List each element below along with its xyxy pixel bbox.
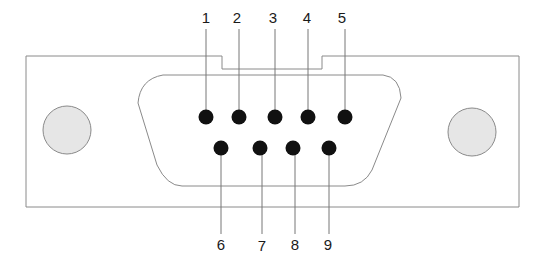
pin-6-label: 6 [217,236,225,253]
pin-9-label: 9 [324,236,332,253]
pin-6 [214,141,229,156]
pin-2 [232,110,247,125]
pin-5-label: 5 [338,9,346,26]
pin-3 [268,110,283,125]
right-mounting-hole [448,108,496,156]
pin-4 [301,110,316,125]
pin-9 [322,141,337,156]
pin-8 [286,141,301,156]
db9-connector-diagram: 1 2 3 4 5 6 7 8 9 [0,0,544,267]
d-sub-shell [138,75,401,186]
pin-2-label: 2 [233,9,241,26]
pin-1-label: 1 [202,9,210,26]
pin-3-label: 3 [269,9,277,26]
pin-4-label: 4 [303,9,311,26]
pin-7-label: 7 [258,237,266,254]
pin-1 [199,110,214,125]
left-mounting-hole [43,106,91,154]
pin-7 [253,141,268,156]
pin-5 [338,110,353,125]
pin-8-label: 8 [291,236,299,253]
